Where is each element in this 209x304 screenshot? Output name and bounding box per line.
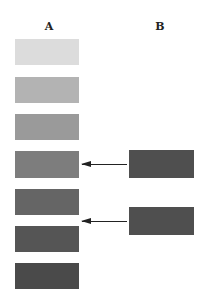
swatch-a-5 [15, 189, 79, 215]
column-label-b: B [150, 20, 170, 33]
swatch-b-2 [129, 207, 194, 235]
swatch-a-6 [15, 226, 79, 252]
column-label-a: A [39, 20, 59, 33]
swatch-a-7 [15, 263, 79, 289]
arrow-b1-to-a4 [82, 164, 127, 165]
arrowhead-left-icon [81, 161, 91, 167]
swatch-a-1 [15, 39, 79, 65]
arrow-b2-to-a5 [82, 221, 127, 222]
swatch-b-1 [129, 150, 194, 178]
arrowhead-left-icon [81, 218, 91, 224]
swatch-a-3 [15, 114, 79, 140]
swatch-a-4 [15, 151, 79, 178]
swatch-a-2 [15, 77, 79, 103]
